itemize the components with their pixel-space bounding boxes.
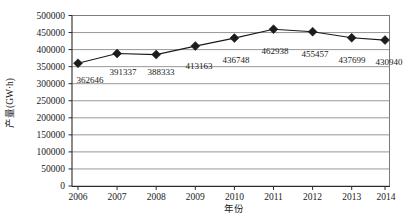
y-tick-label: 0 — [60, 181, 65, 191]
x-tick-label: 2012 — [303, 192, 322, 202]
data-label: 430940 — [376, 57, 404, 67]
line-chart: 0 50000 100000 150000 200000 250000 3000… — [0, 0, 414, 222]
x-axis-title: 年份 — [224, 203, 244, 214]
y-tick-label: 100000 — [37, 147, 66, 157]
data-label: 437699 — [339, 55, 367, 65]
y-tick-label: 500000 — [37, 11, 66, 21]
y-tick-label: 450000 — [37, 28, 66, 38]
y-tick-label: 50000 — [41, 164, 65, 174]
data-label: 462938 — [262, 46, 290, 56]
y-tick-label: 350000 — [37, 62, 66, 72]
y-tick-label: 300000 — [37, 79, 66, 89]
x-tick-label: 2014 — [377, 192, 396, 202]
x-tick-label: 2010 — [225, 192, 244, 202]
x-tick-label: 2013 — [342, 192, 361, 202]
x-tick-label: 2011 — [264, 192, 283, 202]
y-tick-label: 400000 — [37, 45, 66, 55]
data-label: 388333 — [148, 67, 176, 77]
chart-canvas: 0 50000 100000 150000 200000 250000 3000… — [0, 0, 414, 222]
x-tick-label: 2008 — [147, 192, 166, 202]
y-tick-label: 250000 — [37, 96, 66, 106]
data-label: 436748 — [223, 55, 251, 65]
y-axis-title: 产量(GW·h) — [4, 78, 16, 128]
x-tick-label: 2007 — [108, 192, 127, 202]
y-tick-label: 150000 — [37, 130, 66, 140]
data-label: 362646 — [77, 75, 105, 85]
x-tick-label: 2009 — [186, 192, 205, 202]
data-label: 391337 — [110, 67, 138, 77]
x-tick-label: 2006 — [69, 192, 88, 202]
y-tick-label: 200000 — [37, 113, 66, 123]
data-label: 413163 — [186, 61, 214, 71]
data-label: 455457 — [302, 49, 330, 59]
x-axis-tick-labels: 2006 2007 2008 2009 2010 2011 2012 2013 … — [69, 192, 396, 202]
